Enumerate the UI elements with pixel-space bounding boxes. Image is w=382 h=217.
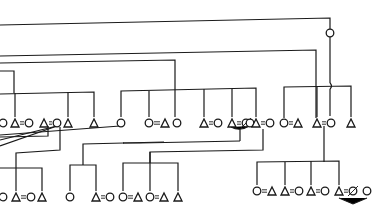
female-circle-icon: [214, 119, 222, 127]
female-circle-icon: [326, 29, 334, 37]
male-triangle-icon: [347, 119, 355, 127]
female-circle-icon: [27, 193, 35, 201]
male-triangle-icon: [294, 119, 302, 127]
male-triangle-icon: [38, 193, 46, 201]
male-triangle-icon: [335, 187, 343, 195]
connector-lines: [0, 18, 367, 204]
female-circle-icon: [146, 193, 154, 201]
female-circle-icon: [117, 119, 125, 127]
male-triangle-icon: [228, 119, 236, 127]
female-circle-icon: [266, 119, 274, 127]
female-circle-icon: [327, 119, 335, 127]
male-triangle-icon: [161, 119, 169, 127]
male-triangle-icon: [11, 119, 19, 127]
genealogy-chart: [0, 0, 382, 217]
female-circle-icon: [0, 119, 7, 127]
male-triangle-icon: [92, 193, 100, 201]
male-triangle-icon: [64, 119, 72, 127]
female-circle-icon: [253, 187, 261, 195]
female-circle-icon: [106, 193, 114, 201]
female-circle-icon: [25, 119, 33, 127]
female-circle-icon: [173, 119, 181, 127]
female-circle-icon: [280, 119, 288, 127]
female-circle-icon: [119, 193, 127, 201]
male-triangle-icon: [313, 119, 321, 127]
female-circle-icon: [145, 119, 153, 127]
male-triangle-icon: [174, 193, 182, 201]
female-circle-icon: [0, 193, 7, 201]
male-triangle-icon: [90, 119, 98, 127]
female-circle-icon: [53, 119, 61, 127]
male-triangle-icon: [160, 193, 168, 201]
male-triangle-icon: [307, 187, 315, 195]
female-circle-icon: [295, 187, 303, 195]
male-triangle-icon: [281, 187, 289, 195]
female-circle-icon: [321, 187, 329, 195]
female-circle-icon: [363, 187, 371, 195]
male-triangle-icon: [40, 119, 48, 127]
male-triangle-icon: [134, 193, 142, 201]
male-triangle-icon: [268, 187, 276, 195]
female-circle-icon: [66, 193, 74, 201]
male-triangle-icon: [200, 119, 208, 127]
male-triangle-icon: [12, 193, 20, 201]
kinship-diagram: [0, 0, 382, 217]
